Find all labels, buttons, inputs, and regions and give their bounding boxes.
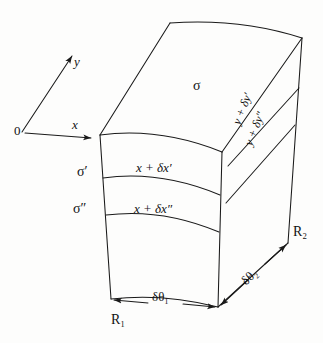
top-face-front-curve [100,133,222,152]
x-plus-delta-x-double-prime-label: x + δx″ [134,202,172,215]
front-face-right-edge [218,152,222,307]
top-face-back-curve [170,22,302,38]
sigma-surface-label: σ [193,79,201,93]
top-face-right-edge [222,38,302,152]
sigma-prime-surface-label: σ′ [77,165,88,179]
y-axis [22,56,72,132]
x-axis-label: x [72,118,78,131]
sigma-prime-curve [103,176,220,195]
delta-theta1-label: δθ₁ [152,290,169,303]
x-plus-delta-x-prime-label: x + δx′ [136,161,172,174]
sigma-double-prime-curve [106,213,219,232]
r2-label: R₂ [293,225,307,239]
right-face-y-delta-double-prime-line [226,125,295,203]
front-face-left-edge [100,135,111,299]
delta-theta2-arrow-upper [265,245,286,264]
top-face-left-edge [100,23,170,135]
right-face-far-edge [288,38,302,243]
origin-label: 0 [14,124,21,137]
r1-label: R₁ [111,313,125,327]
y-axis-label: y [74,55,80,68]
x-axis [25,133,91,138]
sigma-double-prime-surface-label: σ″ [73,202,86,216]
figure-canvas: 0 y x σ σ′ σ″ x + δx′ x + δx″ y + δy′ y … [0,0,323,343]
delta-theta1-arrow-left [114,300,148,303]
